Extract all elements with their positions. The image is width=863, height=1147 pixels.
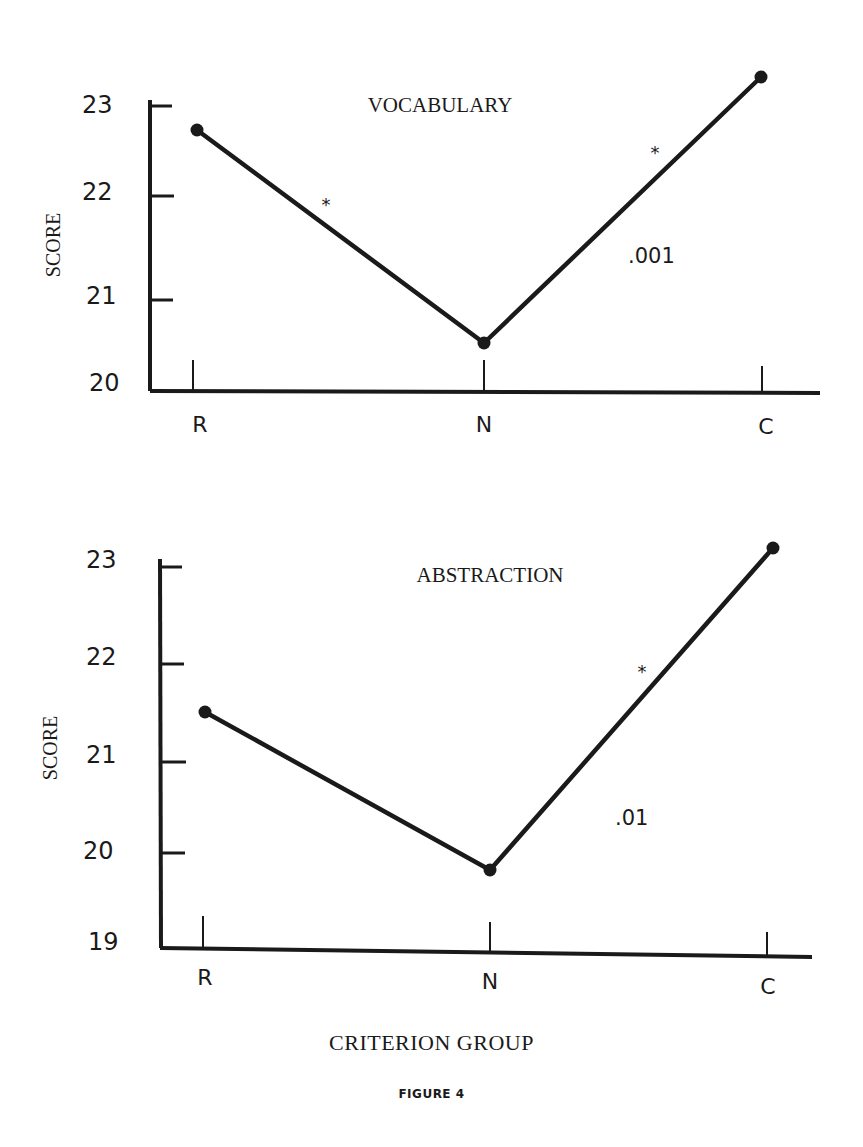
y-axis-label: SCORE (42, 213, 64, 277)
vocabulary-chart: VOCABULARY SCORE 23 22 21 20 R N C * * .… (42, 71, 820, 440)
y-tick-label: 20 (89, 369, 120, 397)
figure-canvas: VOCABULARY SCORE 23 22 21 20 R N C * * .… (0, 0, 863, 1147)
y-axis (160, 559, 161, 948)
significance-star: * (651, 142, 660, 163)
x-category-label: C (760, 974, 775, 999)
y-tick-label: 22 (86, 643, 117, 671)
y-tick-label: 21 (86, 741, 117, 769)
x-category-label: R (192, 412, 207, 437)
data-point (199, 706, 212, 719)
figure-caption: FIGURE 4 (0, 1087, 863, 1101)
x-axis (160, 948, 812, 957)
y-tick-label: 23 (82, 91, 113, 119)
p-value-annotation: .001 (628, 244, 675, 268)
data-point (484, 864, 497, 877)
data-point (478, 337, 491, 350)
data-point (755, 71, 768, 84)
data-point (767, 542, 780, 555)
data-point (191, 124, 204, 137)
x-category-label: N (482, 969, 498, 994)
data-line (205, 548, 773, 870)
y-tick-label: 19 (88, 928, 119, 956)
y-axis-label: SCORE (39, 716, 61, 780)
significance-star: * (322, 194, 331, 215)
x-axis-label: CRITERION GROUP (0, 1030, 863, 1056)
y-tick-label: 22 (82, 178, 113, 206)
significance-star: * (638, 661, 647, 682)
x-category-label: C (758, 414, 773, 439)
x-category-label: N (476, 412, 492, 437)
y-tick-label: 20 (83, 837, 114, 865)
abstraction-chart: ABSTRACTION SCORE 23 22 21 20 19 R N C *… (39, 542, 812, 1000)
p-value-annotation: .01 (615, 806, 648, 830)
x-category-label: R (197, 965, 212, 990)
chart-title: VOCABULARY (368, 93, 513, 117)
y-tick-label: 21 (86, 282, 117, 310)
y-tick-label: 23 (86, 546, 117, 574)
chart-title: ABSTRACTION (416, 563, 563, 587)
